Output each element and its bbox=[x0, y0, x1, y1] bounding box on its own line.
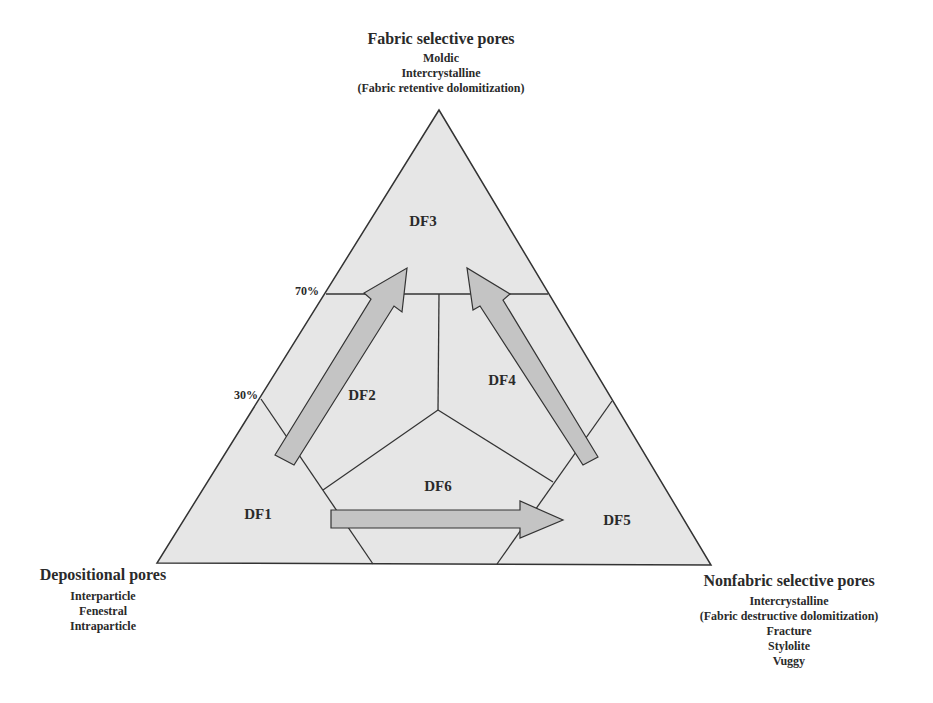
region-label-df2: DF2 bbox=[348, 387, 376, 404]
vertex-bottom-right-item: (Fabric destructive dolomitization) bbox=[700, 609, 879, 624]
vertex-bottom-right-title: Nonfabric selective pores bbox=[700, 571, 879, 590]
region-label-df6: DF6 bbox=[424, 478, 452, 495]
vertex-top-label: Fabric selective pores Moldic Intercryst… bbox=[357, 29, 524, 96]
vertex-bottom-right-label: Nonfabric selective pores Intercrystalli… bbox=[700, 571, 879, 669]
vertex-top-item: Moldic bbox=[357, 51, 524, 66]
vertex-bottom-right-item: Fracture bbox=[700, 624, 879, 639]
vertex-bottom-left-item: Fenestral bbox=[40, 604, 166, 619]
threshold-label-30: 30% bbox=[234, 388, 258, 403]
region-label-df1: DF1 bbox=[244, 506, 272, 523]
vertex-bottom-left-item: Intraparticle bbox=[40, 619, 166, 634]
vertex-top-item: (Fabric retentive dolomitization) bbox=[357, 81, 524, 96]
vertex-bottom-left-title: Depositional pores bbox=[40, 565, 166, 584]
vertex-bottom-left-item: Interparticle bbox=[40, 589, 166, 604]
vertex-bottom-right-item: Stylolite bbox=[700, 639, 879, 654]
vertex-top-title: Fabric selective pores bbox=[357, 29, 524, 48]
vertex-bottom-left-label: Depositional pores Interparticle Fenestr… bbox=[40, 565, 166, 634]
threshold-label-70: 70% bbox=[295, 284, 319, 299]
vertex-bottom-right-item: Intercrystalline bbox=[700, 594, 879, 609]
region-label-df5: DF5 bbox=[603, 512, 631, 529]
ternary-triangle bbox=[157, 110, 711, 565]
vertex-bottom-right-item: Vuggy bbox=[700, 654, 879, 669]
region-label-df3: DF3 bbox=[409, 213, 437, 230]
region-label-df4: DF4 bbox=[488, 372, 516, 389]
vertex-top-item: Intercrystalline bbox=[357, 66, 524, 81]
